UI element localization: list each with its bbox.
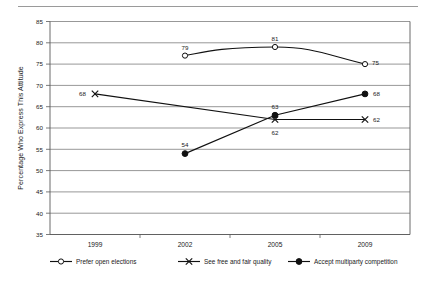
legend-marker-filled-circle-icon [296, 259, 302, 265]
x-tickmarks [140, 235, 320, 239]
y-tick-labels: 85 80 75 70 65 60 55 50 45 40 35 [36, 18, 43, 238]
series-1-point-2002 [182, 53, 187, 58]
series-2-label-2005: 62 [272, 129, 279, 136]
y-tick-label-50: 50 [36, 167, 43, 174]
y-tick-label-60: 60 [36, 124, 43, 131]
series-accept-multiparty-competition: 54 63 68 [182, 90, 381, 157]
series-see-free-and-fair-quality: 68 62 62 [79, 90, 380, 136]
series-3-label-2009: 68 [373, 90, 380, 97]
x-tick-label-2009: 2009 [358, 241, 373, 248]
legend-label-3: Accept multiparty competition [314, 258, 398, 266]
y-tick-label-45: 45 [36, 188, 43, 195]
y-tick-label-65: 65 [36, 103, 43, 110]
x-tick-label-1999: 1999 [88, 241, 103, 248]
series-3-point-2002 [182, 151, 188, 157]
y-tick-label-85: 85 [36, 18, 43, 25]
series-3-point-2009 [362, 91, 368, 97]
series-2-label-2009: 62 [373, 116, 380, 123]
series-1-label-2002: 79 [182, 44, 189, 51]
series-1-label-2005: 81 [272, 35, 279, 42]
x-tick-labels: 1999 2002 2005 2009 [88, 241, 373, 248]
legend-item-accept-multiparty-competition[interactable]: Accept multiparty competition [288, 258, 398, 266]
legend-item-see-free-and-fair-quality[interactable]: See free and fair quality [178, 258, 272, 266]
legend-marker-open-circle-icon [58, 259, 63, 264]
series-3-label-2002: 54 [182, 141, 189, 148]
series-1-label-2009: 75 [372, 59, 379, 66]
y-tick-label-55: 55 [36, 146, 43, 153]
y-tick-label-75: 75 [36, 60, 43, 67]
x-tick-label-2005: 2005 [268, 241, 283, 248]
line-chart: Percentage Who Express This Attitude [0, 0, 428, 281]
legend-label-1: Prefer open elections [76, 258, 136, 266]
y-axis-title: Percentage Who Express This Attitude [17, 66, 25, 189]
chart-legend: Prefer open elections See free and fair … [50, 258, 398, 266]
series-3-label-2005: 63 [272, 103, 279, 110]
x-tick-label-2002: 2002 [178, 241, 193, 248]
y-tick-label-80: 80 [36, 39, 43, 46]
series-prefer-open-elections: 79 81 75 [182, 35, 380, 67]
y-tick-label-35: 35 [36, 231, 43, 238]
y-tick-label-70: 70 [36, 82, 43, 89]
chart-figure: Percentage Who Express This Attitude [0, 0, 428, 281]
legend-item-prefer-open-elections[interactable]: Prefer open elections [50, 258, 136, 266]
legend-label-2: See free and fair quality [204, 258, 272, 266]
series-3-point-2005 [272, 112, 278, 118]
series-1-point-2009 [362, 62, 367, 67]
series-2-label-1999: 68 [79, 90, 86, 97]
y-tick-label-40: 40 [36, 210, 43, 217]
gridlines [50, 22, 410, 235]
y-tickmarks [46, 22, 50, 235]
series-1-point-2005 [272, 44, 277, 49]
